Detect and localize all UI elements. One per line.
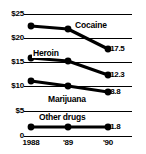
series-label-heroin: Heroin [32, 49, 60, 58]
data-point-marijuana-1989 [65, 83, 72, 90]
value-label-heroin: $12.3 [106, 71, 125, 79]
series-label-cocaine: Cocaine [74, 21, 108, 30]
x-tick-label-1989: '89 [57, 139, 79, 147]
series-other-drugs [28, 124, 112, 131]
value-label-marijuana: $8.8 [106, 88, 120, 96]
series-marijuana [28, 78, 112, 96]
series-label-other-drugs: Other drugs [38, 113, 86, 122]
series-heroin [28, 55, 112, 79]
x-tick-label-1990: '90 [97, 139, 119, 147]
data-point-cocaine-1989 [65, 26, 72, 33]
value-label-other-drugs: $1.8 [106, 123, 120, 131]
data-point-heroin-1989 [65, 58, 72, 65]
data-point-marijuana-1988 [28, 78, 35, 85]
data-point-other-drugs-1988 [28, 124, 35, 131]
series-label-marijuana: Marijuana [47, 95, 87, 104]
data-point-other-drugs-1989 [65, 124, 72, 131]
value-label-cocaine: $17.5 [106, 45, 125, 53]
drug-price-line-chart: $25 $20 $15 $10 $5 0 [0, 0, 146, 154]
data-point-cocaine-1988 [28, 23, 35, 30]
x-tick-label-1988: 1988 [18, 139, 44, 147]
